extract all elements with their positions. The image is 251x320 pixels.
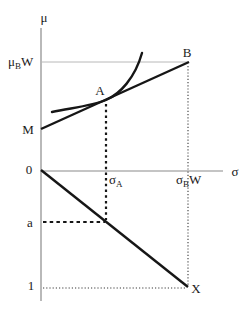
point-m-label: M [22,123,34,136]
sigma-b-w-label: σBW [176,173,201,189]
level-one-label: 1 [28,279,35,292]
point-b-label: B [183,46,192,59]
mu-b-w-base: μ [8,54,15,69]
origin-label: 0 [26,163,33,176]
point-a-label: A [95,84,104,97]
sigma-a-base: σ [109,172,116,187]
sigma-b-w-base: σ [176,172,183,187]
mu-axis-label: μ [41,11,48,24]
point-x-label: X [191,282,200,295]
sigma-b-w-suffix: W [189,172,201,187]
mean-variance-diagram: μ σ μBW B A M 0 X σA σBW a 1 [0,0,251,320]
mu-b-w-label: μBW [8,55,33,71]
level-a-label: a [27,216,33,229]
sigma-a-sub: A [116,179,123,189]
sigma-a-label: σA [109,173,123,189]
sigma-axis-label: σ [231,165,238,178]
mu-b-w-suffix: W [21,54,33,69]
diagram-canvas [0,0,251,320]
